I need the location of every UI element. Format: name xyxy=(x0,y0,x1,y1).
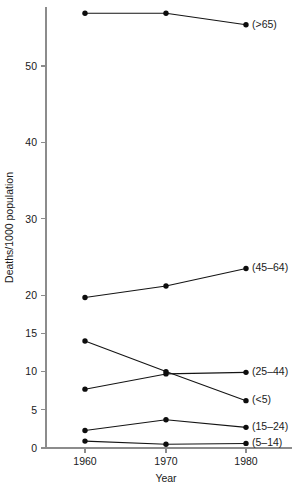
y-tick-label: 5 xyxy=(31,404,37,416)
x-tick-label: 1970 xyxy=(154,455,178,467)
data-point xyxy=(163,369,168,374)
y-tick-label: 20 xyxy=(25,289,37,301)
series-(15-24): (15–24) xyxy=(82,417,288,433)
series-label: (25–44) xyxy=(252,365,288,377)
series-line xyxy=(85,268,246,297)
y-tick-label: 10 xyxy=(25,365,37,377)
data-point xyxy=(163,283,168,288)
series-layer: (>65)(45–64)(25–44)(<5)(15–24)(5–14) xyxy=(82,11,288,449)
data-point xyxy=(82,295,87,300)
series-label: (>65) xyxy=(252,18,277,30)
x-tick-label: 1980 xyxy=(234,455,258,467)
chart-container: 05101520304050 196019701980 (>65)(45–64)… xyxy=(0,0,296,489)
x-tick-group: 196019701980 xyxy=(73,448,258,467)
series-label: (15–24) xyxy=(252,420,288,432)
series-(45-64): (45–64) xyxy=(82,261,288,300)
series-(>65): (>65) xyxy=(82,11,277,30)
series-label: (<5) xyxy=(252,393,271,405)
data-point xyxy=(243,398,248,403)
x-axis: 196019701980 xyxy=(46,448,292,467)
y-tick-label: 30 xyxy=(25,213,37,225)
y-axis-title: Deaths/1000 population xyxy=(3,172,15,283)
data-point xyxy=(82,11,87,16)
data-point xyxy=(163,441,168,446)
line-chart: 05101520304050 196019701980 (>65)(45–64)… xyxy=(0,0,296,489)
series-label: (5–14) xyxy=(252,436,282,448)
data-point xyxy=(243,441,248,446)
data-point xyxy=(243,22,248,27)
series-(5-14): (5–14) xyxy=(82,436,282,448)
series-(<5): (<5) xyxy=(82,338,271,405)
y-tick-label: 40 xyxy=(25,136,37,148)
y-tick-group: 05101520304050 xyxy=(25,60,46,454)
data-point xyxy=(243,370,248,375)
data-point xyxy=(243,266,248,271)
data-point xyxy=(163,417,168,422)
data-point xyxy=(82,386,87,391)
y-tick-label: 0 xyxy=(31,442,37,454)
x-axis-title: Year xyxy=(155,472,177,484)
data-point xyxy=(82,438,87,443)
data-point xyxy=(163,11,168,16)
x-tick-label: 1960 xyxy=(73,455,97,467)
series-label: (45–64) xyxy=(252,261,288,273)
data-point xyxy=(82,428,87,433)
data-point xyxy=(82,338,87,343)
data-point xyxy=(243,425,248,430)
y-axis: 05101520304050 xyxy=(25,7,46,454)
y-tick-label: 50 xyxy=(25,60,37,72)
y-tick-label: 15 xyxy=(25,327,37,339)
